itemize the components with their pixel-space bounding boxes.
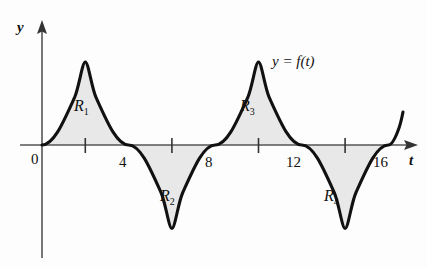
plot-area <box>0 0 427 269</box>
region-label-r4: R4 <box>324 188 339 207</box>
region-label-r3-name: R <box>240 97 250 114</box>
tick-label-8: 8 <box>205 155 213 170</box>
figure-container: y t 0 4 8 12 16 y = f(t) R1 R2 R3 R4 <box>0 0 427 269</box>
y-axis-label: y <box>17 20 24 35</box>
tick-label-0: 0 <box>31 152 39 167</box>
region-label-r3-subscript: 3 <box>250 106 255 117</box>
region-label-r1-subscript: 1 <box>84 106 89 117</box>
region-label-r4-subscript: 4 <box>334 196 339 207</box>
region-label-r2: R2 <box>160 188 175 207</box>
tick-label-4: 4 <box>119 155 127 170</box>
region-label-r2-name: R <box>160 187 170 204</box>
curve-equation-label: y = f(t) <box>272 54 315 69</box>
tick-label-16: 16 <box>373 155 388 170</box>
shaded-region-r3 <box>215 62 302 145</box>
region-label-r1: R1 <box>74 98 89 117</box>
region-label-r3: R3 <box>240 98 255 117</box>
region-label-r1-name: R <box>74 97 84 114</box>
region-label-r2-subscript: 2 <box>170 196 175 207</box>
shaded-region-r2 <box>129 145 216 229</box>
x-axis-label: t <box>409 153 413 168</box>
region-label-r4-name: R <box>324 187 334 204</box>
y-axis <box>37 20 47 258</box>
tick-label-12: 12 <box>286 155 301 170</box>
